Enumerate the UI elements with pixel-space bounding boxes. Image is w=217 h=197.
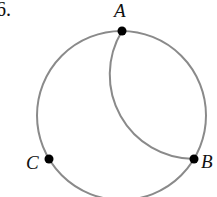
point-b xyxy=(190,155,199,164)
label-c: C xyxy=(26,152,39,174)
point-a xyxy=(118,27,127,36)
point-c xyxy=(45,155,54,164)
inner-arc-a-to-b xyxy=(110,31,194,159)
label-a: A xyxy=(114,0,126,22)
label-b: B xyxy=(201,151,213,173)
outer-circle xyxy=(37,31,206,197)
